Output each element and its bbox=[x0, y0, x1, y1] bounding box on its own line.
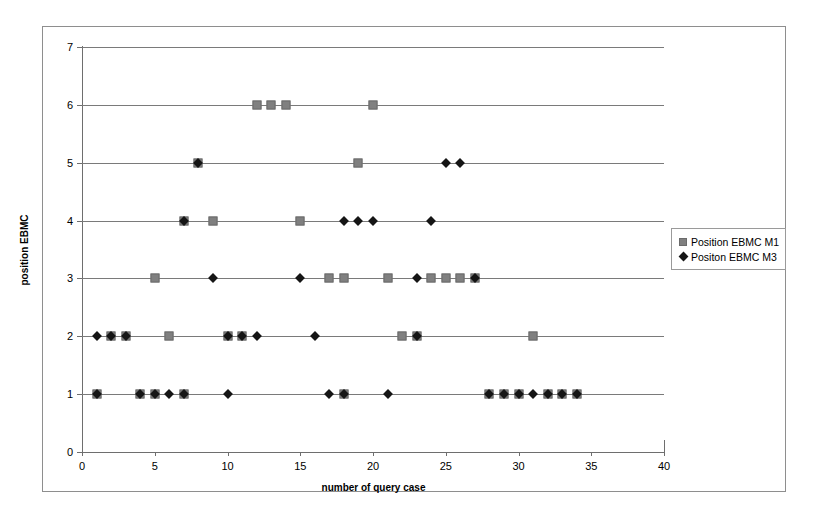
y-tick-label: 4 bbox=[67, 215, 73, 226]
x-tick-label: 25 bbox=[440, 461, 452, 472]
data-point-m3 bbox=[324, 389, 334, 399]
y-tick bbox=[77, 336, 82, 337]
x-axis-title: number of query case bbox=[82, 482, 665, 493]
data-point-m1 bbox=[252, 100, 261, 109]
data-point-m1 bbox=[208, 216, 217, 225]
x-tick bbox=[446, 452, 447, 456]
x-tick bbox=[155, 452, 156, 456]
data-point-m3 bbox=[383, 389, 393, 399]
data-point-m1 bbox=[529, 332, 538, 341]
gridline bbox=[82, 163, 664, 164]
diamond-marker-icon bbox=[677, 253, 689, 260]
data-point-m3 bbox=[412, 273, 422, 283]
x-tick bbox=[664, 452, 665, 456]
chart-page: 01234567 0510152025303540 position EBMC … bbox=[0, 0, 821, 528]
data-point-m3 bbox=[455, 158, 465, 168]
y-tick bbox=[77, 221, 82, 222]
y-tick-label: 3 bbox=[67, 273, 73, 284]
plot-area: 01234567 0510152025303540 bbox=[82, 47, 664, 452]
data-point-m1 bbox=[339, 274, 348, 283]
data-point-m3 bbox=[310, 331, 320, 341]
data-point-m3 bbox=[528, 389, 538, 399]
chart-legend: Position EBMC M1 Positon EBMC M3 bbox=[671, 228, 786, 270]
data-point-m3 bbox=[339, 216, 349, 226]
x-tick bbox=[519, 452, 520, 456]
y-axis-title: position EBMC bbox=[19, 214, 30, 285]
y-tick-label: 1 bbox=[67, 389, 73, 400]
y-tick-label: 7 bbox=[67, 42, 73, 53]
legend-item-m3: Positon EBMC M3 bbox=[677, 249, 779, 264]
legend-label-m1: Position EBMC M1 bbox=[691, 236, 779, 248]
x-tick-label: 30 bbox=[512, 461, 524, 472]
data-point-m1 bbox=[441, 274, 450, 283]
data-point-m3 bbox=[353, 216, 363, 226]
data-point-m3 bbox=[368, 216, 378, 226]
data-point-m3 bbox=[252, 331, 262, 341]
data-point-m3 bbox=[441, 158, 451, 168]
y-tick bbox=[77, 394, 82, 395]
data-point-m1 bbox=[296, 216, 305, 225]
legend-item-m1: Position EBMC M1 bbox=[677, 234, 779, 249]
x-tick bbox=[373, 452, 374, 456]
y-tick bbox=[77, 163, 82, 164]
data-point-m1 bbox=[165, 332, 174, 341]
data-point-m1 bbox=[325, 274, 334, 283]
x-tick-label: 20 bbox=[367, 461, 379, 472]
y-tick bbox=[77, 47, 82, 48]
data-point-m1 bbox=[369, 100, 378, 109]
data-point-m1 bbox=[150, 274, 159, 283]
x-tick-label: 0 bbox=[79, 461, 85, 472]
data-point-m3 bbox=[164, 389, 174, 399]
x-tick bbox=[591, 452, 592, 456]
data-point-m1 bbox=[354, 158, 363, 167]
data-point-m1 bbox=[456, 274, 465, 283]
data-point-m1 bbox=[427, 274, 436, 283]
x-tick bbox=[300, 452, 301, 456]
data-point-m1 bbox=[398, 332, 407, 341]
x-tick-label: 35 bbox=[585, 461, 597, 472]
y-tick-label: 5 bbox=[67, 157, 73, 168]
y-tick bbox=[77, 278, 82, 279]
x-tick-label: 10 bbox=[221, 461, 233, 472]
data-point-m3 bbox=[223, 389, 233, 399]
data-point-m3 bbox=[208, 273, 218, 283]
y-tick-label: 2 bbox=[67, 331, 73, 342]
x-tick bbox=[228, 452, 229, 456]
legend-label-m3: Positon EBMC M3 bbox=[691, 251, 777, 263]
square-marker-icon bbox=[677, 238, 689, 246]
gridline bbox=[82, 278, 664, 279]
x-tick bbox=[82, 452, 83, 456]
gridline bbox=[82, 47, 664, 48]
y-tick-label: 6 bbox=[67, 99, 73, 110]
x-tick-label: 5 bbox=[152, 461, 158, 472]
data-point-m1 bbox=[281, 100, 290, 109]
data-point-m3 bbox=[92, 331, 102, 341]
x-tick-label: 15 bbox=[294, 461, 306, 472]
data-point-m1 bbox=[383, 274, 392, 283]
x-tick-label: 40 bbox=[658, 461, 670, 472]
data-point-m3 bbox=[426, 216, 436, 226]
data-point-m1 bbox=[267, 100, 276, 109]
y-tick bbox=[77, 105, 82, 106]
y-tick-label: 0 bbox=[67, 447, 73, 458]
data-point-m3 bbox=[295, 273, 305, 283]
